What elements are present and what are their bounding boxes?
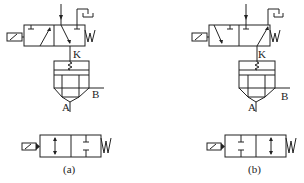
panel-b-pilot-valve bbox=[192, 4, 283, 62]
panel-b-k-label: K bbox=[258, 49, 266, 60]
panel-b-main-valve bbox=[239, 61, 290, 112]
panel-b-equivalent-valve bbox=[207, 135, 296, 157]
solenoid-icon bbox=[7, 33, 22, 41]
solenoid-icon bbox=[192, 33, 207, 41]
panel-b-b-label: B bbox=[281, 91, 288, 102]
spring-icon bbox=[85, 30, 95, 42]
spring-icon bbox=[101, 138, 111, 153]
panel-a-pilot-valve bbox=[7, 4, 95, 62]
solenoid-icon bbox=[22, 143, 36, 150]
pneumatic-diagram bbox=[0, 0, 304, 183]
panel-a-k-label: K bbox=[73, 49, 81, 60]
panel-a-caption: (a) bbox=[63, 164, 75, 175]
spring-icon bbox=[286, 138, 296, 153]
panel-b bbox=[192, 4, 296, 157]
panel-b-a-label: A bbox=[248, 102, 256, 113]
solenoid-icon bbox=[207, 143, 221, 150]
panel-a-a-label: A bbox=[62, 102, 70, 113]
panel-a bbox=[7, 4, 111, 157]
spring-icon bbox=[270, 30, 280, 42]
panel-a-equivalent-valve bbox=[22, 135, 111, 157]
panel-a-b-label: B bbox=[92, 89, 99, 100]
panel-b-caption: (b) bbox=[248, 164, 261, 175]
